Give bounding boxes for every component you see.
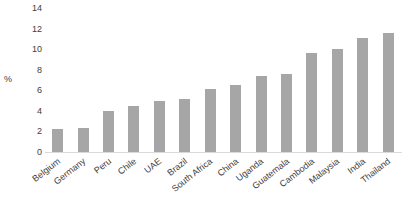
x-label-slot: Germany	[70, 154, 95, 212]
bar-slot	[248, 8, 273, 152]
y-axis-tick-labels: 02468101214	[20, 0, 42, 160]
bar[interactable]	[52, 129, 63, 152]
x-axis-tick-label-text: UAE	[143, 156, 164, 175]
bar[interactable]	[383, 33, 394, 152]
bar-slot	[45, 8, 70, 152]
bar-slot	[172, 8, 197, 152]
y-axis-tick-label: 6	[37, 86, 42, 95]
bar-chart: % 02468101214 BelgiumGermanyPeruChileUAE…	[0, 0, 413, 212]
bar[interactable]	[179, 99, 190, 152]
bar[interactable]	[154, 101, 165, 152]
y-axis-tick-label: 8	[37, 65, 42, 74]
bar[interactable]	[205, 89, 216, 152]
y-axis-tick-label: 12	[32, 24, 42, 33]
x-axis-category-labels: BelgiumGermanyPeruChileUAEBrazilSouth Af…	[45, 154, 401, 212]
x-label-slot: Peru	[96, 154, 121, 212]
bar-slot	[325, 8, 350, 152]
bar[interactable]	[256, 76, 267, 152]
x-label-slot: Chile	[121, 154, 146, 212]
bar[interactable]	[128, 106, 139, 152]
x-label-slot: South Africa	[198, 154, 223, 212]
bar-slot	[375, 8, 400, 152]
x-label-slot: Thailand	[375, 154, 400, 212]
x-label-slot: China	[223, 154, 248, 212]
bar-series	[45, 8, 401, 152]
y-axis-tick-label: 14	[32, 4, 42, 13]
bar-slot	[274, 8, 299, 152]
x-label-slot: UAE	[147, 154, 172, 212]
x-label-slot: Malaysia	[325, 154, 350, 212]
y-axis-tick-label: 0	[37, 148, 42, 157]
plot-area	[45, 8, 401, 152]
y-axis-tick-label: 10	[32, 45, 42, 54]
y-axis-title: %	[4, 74, 12, 84]
bar-slot	[350, 8, 375, 152]
y-axis-tick-label: 2	[37, 127, 42, 136]
bar-slot	[147, 8, 172, 152]
y-axis-tick-label: 4	[37, 106, 42, 115]
bar-slot	[198, 8, 223, 152]
bar-slot	[96, 8, 121, 152]
bar-slot	[121, 8, 146, 152]
bar-slot	[70, 8, 95, 152]
